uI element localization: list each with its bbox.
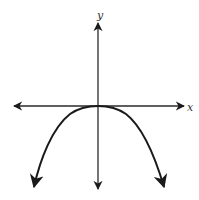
- y-axis-label: y: [96, 9, 104, 22]
- graph-canvas: y x: [0, 0, 199, 200]
- x-axis-label: x: [187, 101, 194, 114]
- function-curve: [34, 106, 164, 187]
